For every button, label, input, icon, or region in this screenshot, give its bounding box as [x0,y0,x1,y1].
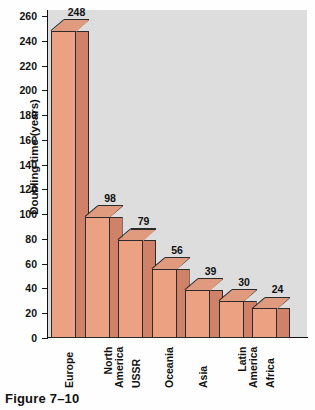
y-axis-tick-label: 120 [19,184,37,194]
y-axis-tick-label: 260 [19,11,37,21]
y-axis-tick-label: 240 [19,36,37,46]
bar-front-face [252,308,277,338]
x-axis-label-africa: Africa [265,358,276,388]
x-axis-label-north-america: NorthAmerica [103,347,125,388]
y-axis-tick-label: 160 [19,135,37,145]
bar-north-america[interactable] [85,206,123,338]
bar-top-back-edge [232,289,257,290]
bar-top-back-edge [64,19,89,20]
y-axis-tick-label: 20 [25,308,37,318]
bar-value-label: 56 [159,244,196,256]
bar-value-label: 98 [92,192,129,204]
figure-caption: Figure 7–10 [5,391,79,406]
bar-front-face [85,217,110,338]
bar-front-face [51,31,76,338]
bar-top-back-edge [131,228,156,229]
y-axis-tick-label: 220 [19,61,37,71]
bars-layer: 248987956393024 [48,10,307,338]
x-axis-label-line: Europe [64,352,75,388]
x-axis-category-labels: EuropeNorthAmericaUSSROceaniaAsiaLatinAm… [0,342,315,390]
y-axis-tick-label: 140 [19,160,37,170]
bar-europe[interactable] [51,20,89,338]
bar-value-label: 30 [226,276,263,288]
x-axis-label-europe: Europe [64,352,75,388]
bar-front-face [185,290,210,338]
bar-top-back-edge [265,297,290,298]
bar-side-face [277,308,290,338]
bar-oceania[interactable] [152,258,190,338]
bar-africa[interactable] [252,297,290,338]
bar-value-label: 248 [58,6,95,18]
x-axis-label-line: USSR [131,359,142,388]
y-axis-tick-label: 100 [19,209,37,219]
y-axis-tick-label: 80 [25,234,37,244]
y-axis-tick-label: 200 [19,85,37,95]
x-axis-label-line: Oceania [164,347,175,388]
x-axis-label-line: Africa [265,358,276,388]
bar-latin-america[interactable] [219,290,257,338]
y-axis-tick-label: 60 [25,259,37,269]
bar-value-label: 39 [192,265,229,277]
y-axis-tick-labels: 020406080100120140160180200220240260 [0,0,44,345]
x-axis-label-asia: Asia [198,366,209,388]
bar-ussr[interactable] [118,229,156,338]
bar-asia[interactable] [185,279,223,338]
x-axis-label-line: America [114,347,125,388]
bar-front-face [152,269,177,338]
bar-top-back-edge [198,278,223,279]
bar-top-back-edge [165,257,190,258]
y-axis-tick-label: 180 [19,110,37,120]
bar-front-face [219,301,244,338]
x-axis-label-oceania: Oceania [164,347,175,388]
bar-top-back-edge [98,205,123,206]
bar-front-face [118,240,143,338]
figure-root: Doubling time (years) 020406080100120140… [0,0,315,410]
bar-value-label: 79 [125,215,162,227]
x-axis-label-ussr: USSR [131,359,142,388]
y-axis-tick-label: 40 [25,283,37,293]
x-axis-label-line: Asia [198,366,209,388]
x-axis-label-latin-america: LatinAmerica [237,347,259,388]
x-axis-label-line: America [248,347,259,388]
bar-value-label: 24 [259,283,296,295]
